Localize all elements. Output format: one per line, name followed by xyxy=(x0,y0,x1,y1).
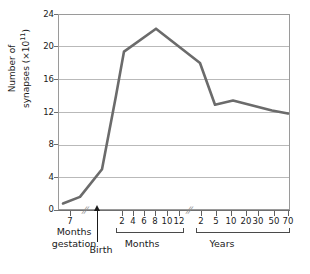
synapse-density-chart: Number of synapses (×1011) 24 20 16 12 8… xyxy=(0,0,310,274)
birth-arrow-icon xyxy=(97,210,98,242)
x-axis-line xyxy=(58,210,290,211)
bracket-years xyxy=(196,228,290,233)
bracket-months xyxy=(116,228,184,233)
x-label-month-12: 12 xyxy=(170,216,188,227)
caption-birth: Birth xyxy=(79,244,123,255)
x-label-year-70: 70 xyxy=(279,216,297,227)
synapse-line xyxy=(63,29,288,204)
caption-years: Years xyxy=(192,238,252,250)
